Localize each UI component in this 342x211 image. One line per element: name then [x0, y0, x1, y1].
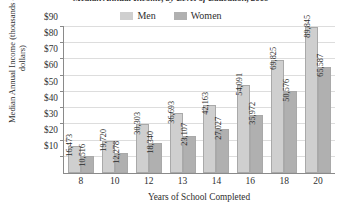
bar-women-14[interactable]: 27,027 — [216, 129, 229, 173]
y-tick-label: $60 — [44, 62, 58, 71]
legend-item-men: Men — [120, 11, 155, 21]
bar-value-label: 18,340 — [147, 131, 155, 154]
bars-layer: 16,47310,516819,72012,2781030,30318,3401… — [64, 27, 335, 173]
bar-women-13[interactable]: 23,107 — [183, 136, 196, 173]
bar-group: 54,09135,97216 — [233, 27, 267, 173]
bar-women-12[interactable]: 18,340 — [149, 143, 162, 173]
legend-label-men: Men — [137, 11, 155, 21]
x-axis-title: Years of School Completed — [63, 192, 335, 202]
y-tick-label: $80 — [44, 29, 58, 38]
bar-women-18[interactable]: 50,576 — [284, 91, 297, 173]
y-tick-label: $50 — [44, 78, 58, 87]
bar-women-10[interactable]: 12,278 — [115, 153, 128, 173]
x-tick-label-10: 10 — [110, 177, 120, 187]
y-tick-label: $90 — [44, 13, 58, 22]
bar-value-label: 65,587 — [316, 54, 324, 77]
bar-group: 19,72012,27810 — [98, 27, 132, 173]
bar-value-label: 42,163 — [202, 92, 210, 115]
bar-women-16[interactable]: 35,972 — [250, 115, 263, 173]
bar-value-label: 30,303 — [134, 111, 142, 134]
legend-swatch-men — [120, 12, 133, 20]
bar-group: 36,69323,10713 — [166, 27, 200, 173]
x-tick-label-18: 18 — [279, 177, 289, 187]
chart-title: Median Annual Income, by Level of Educat… — [0, 0, 342, 3]
bar-men-16[interactable]: 54,091 — [237, 85, 250, 173]
bar-men-20[interactable]: 89,845 — [305, 27, 318, 173]
legend-label-women: Women — [191, 11, 222, 21]
x-tick-label-14: 14 — [212, 177, 222, 187]
bar-value-label: 50,576 — [282, 79, 290, 102]
bar-women-8[interactable]: 10,516 — [81, 156, 94, 173]
legend-item-women: Women — [174, 11, 222, 21]
bar-value-label: 19,720 — [100, 129, 108, 152]
x-tick-label-13: 13 — [178, 177, 188, 187]
y-tick-label: $40 — [44, 94, 58, 103]
bar-group: 89,84565,58720 — [301, 27, 335, 173]
bar-women-20[interactable]: 65,587 — [318, 67, 331, 173]
bar-value-label: 27,027 — [215, 117, 223, 140]
legend-swatch-women — [174, 12, 187, 20]
bar-value-label: 23,107 — [181, 123, 189, 146]
y-tick-label: $70 — [44, 46, 58, 55]
bar-value-label: 10,516 — [79, 144, 87, 167]
bar-value-label: 35,972 — [249, 102, 257, 125]
bar-value-label: 12,278 — [113, 141, 121, 164]
plot-area: $10$20$30$40$50$60$70$80$90 16,47310,516… — [63, 27, 335, 174]
bar-value-label: 16,473 — [66, 134, 74, 157]
y-tick-label: $10 — [44, 143, 58, 152]
y-tick-label: $30 — [44, 110, 58, 119]
bar-group: 42,16327,02714 — [200, 27, 234, 173]
bar-men-18[interactable]: 69,825 — [271, 60, 284, 173]
x-tick-label-12: 12 — [144, 177, 154, 187]
bar-value-label: 36,693 — [168, 101, 176, 124]
bar-chart-figure: Median Annual Income, by Level of Educat… — [0, 0, 342, 211]
x-tick-label-20: 20 — [313, 177, 323, 187]
y-axis-title: Median Annual Income (thousands of dolla… — [7, 0, 27, 133]
bar-group: 16,47310,5168 — [64, 27, 98, 173]
x-tick-label-16: 16 — [246, 177, 256, 187]
bar-value-label: 89,845 — [303, 15, 311, 38]
bar-group: 69,82550,57618 — [267, 27, 301, 173]
x-tick-label-8: 8 — [79, 177, 84, 187]
bar-value-label: 69,825 — [269, 47, 277, 70]
bar-group: 30,30318,34012 — [132, 27, 166, 173]
bar-value-label: 54,091 — [236, 73, 244, 96]
y-tick-label: $20 — [44, 127, 58, 136]
